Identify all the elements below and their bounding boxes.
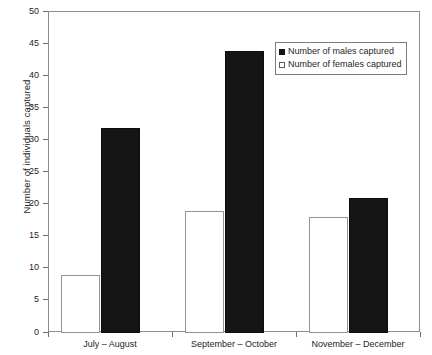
x-axis-category-label: November – December bbox=[311, 339, 404, 349]
y-axis-tick-label: 5 bbox=[34, 293, 39, 305]
y-axis-tick-label: 35 bbox=[29, 101, 39, 113]
bar-males bbox=[225, 51, 264, 333]
y-axis-tick-label: 40 bbox=[29, 69, 39, 81]
x-axis-tick-mark bbox=[48, 332, 49, 337]
legend-swatch-open-icon bbox=[279, 62, 285, 68]
bar-females bbox=[309, 217, 348, 333]
bar-chart: Number of individuals captured 051015202… bbox=[0, 0, 432, 355]
legend-item-label: Number of females captured bbox=[288, 59, 402, 70]
bar-females bbox=[185, 211, 224, 333]
legend-swatch-filled-icon bbox=[279, 49, 285, 55]
y-axis-tick-label: 25 bbox=[29, 165, 39, 177]
bar-males bbox=[349, 198, 388, 333]
y-axis-tick-label: 30 bbox=[29, 133, 39, 145]
x-axis-tick-mark bbox=[296, 332, 297, 337]
legend: Number of males capturedNumber of female… bbox=[275, 42, 407, 75]
legend-item: Number of females captured bbox=[279, 58, 402, 71]
legend-item-label: Number of males captured bbox=[288, 46, 394, 57]
y-axis-tick-label: 45 bbox=[29, 37, 39, 49]
y-axis-tick-label: 15 bbox=[29, 229, 39, 241]
bar-males bbox=[101, 128, 140, 333]
y-axis-tick-label: 20 bbox=[29, 197, 39, 209]
x-axis-category-label: September – October bbox=[191, 339, 277, 349]
bar-females bbox=[61, 275, 100, 333]
y-axis-tick-label: 0 bbox=[34, 326, 39, 338]
legend-item: Number of males captured bbox=[279, 45, 402, 58]
y-axis-tick-label: 10 bbox=[29, 261, 39, 273]
x-axis-tick-mark bbox=[172, 332, 173, 337]
y-axis-tick-label: 50 bbox=[29, 5, 39, 17]
x-axis-category-label: July – August bbox=[83, 339, 137, 349]
x-axis-tick-mark bbox=[420, 332, 421, 337]
